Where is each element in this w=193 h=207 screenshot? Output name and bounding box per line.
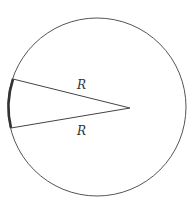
lower-radius-label: R bbox=[76, 124, 86, 138]
sector-diagram: R R bbox=[0, 0, 193, 207]
diagram-canvas: R R bbox=[0, 0, 193, 207]
upper-radius-line bbox=[13, 79, 130, 108]
highlighted-arc bbox=[8, 79, 13, 128]
lower-radius-line bbox=[11, 108, 130, 128]
circle-outline bbox=[8, 18, 186, 196]
upper-radius-label: R bbox=[76, 78, 86, 92]
